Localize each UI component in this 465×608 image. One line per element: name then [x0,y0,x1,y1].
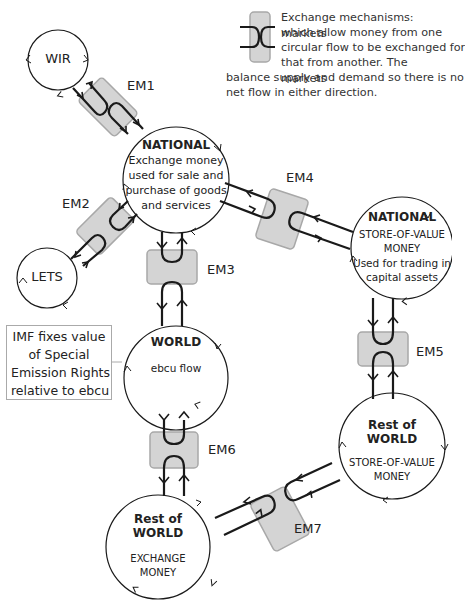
rest-world-store-line-2: MONEY [342,470,442,484]
national-exchange-text: NATIONAL Exchange money used for sale an… [118,138,234,213]
imf-line-2: of Special [11,346,107,364]
national-exchange-line-1: Exchange money [118,154,234,168]
imf-line-1: IMF fixes value [11,328,107,346]
national-store-line-4: capital assets [350,270,454,284]
rest-world-exchange-line-1: EXCHANGE [108,552,208,566]
legend-line-5: balance supply and demand so there is no [226,70,464,86]
rest-world-store-title-1: Rest of [342,418,442,432]
legend-line-2: which allow money from one [281,25,442,41]
wir-label: WIR [28,52,88,66]
world-subtitle: ebcu flow [126,361,226,375]
imf-annotation-box: IMF fixes value of Special Emission Righ… [6,325,112,400]
em4-mechanism [220,183,353,250]
em2-label: EM2 [62,196,90,211]
world-title: WORLD [126,335,226,349]
rest-world-exchange-line-2: MONEY [108,566,208,580]
em3-mechanism [147,232,197,326]
national-exchange-line-4: and services [118,199,234,213]
rest-world-exchange-title-1: Rest of [108,512,208,526]
legend-line-3: circular flow to be exchanged for [281,40,465,56]
em4-label: EM4 [286,170,314,185]
em7-label: EM7 [294,521,322,536]
em3-label: EM3 [207,262,235,277]
national-exchange-title: NATIONAL [118,138,234,152]
lets-label: LETS [17,270,77,284]
national-store-line-2: MONEY [350,242,454,256]
national-exchange-line-3: purchase of goods [118,184,234,198]
national-store-title: NATIONAL [350,210,454,224]
em5-label: EM5 [416,344,444,359]
rest-world-exchange-title-2: WORLD [108,526,208,540]
national-store-text: NATIONAL STORE-OF-VALUE MONEY Used for t… [350,210,454,284]
national-exchange-line-2: used for sale and [118,169,234,183]
em5-mechanism [358,298,408,399]
rest-world-store-line-1: STORE-OF-VALUE [342,456,442,470]
em7-mechanism [215,463,340,552]
imf-line-3: Emission Rights [11,364,107,382]
em6-label: EM6 [208,442,236,457]
rest-world-store-title-2: WORLD [342,432,442,446]
world-text: WORLD ebcu flow [126,335,226,375]
national-store-line-3: Used for trading in [350,256,454,270]
legend-line-6: net flow in either direction. [226,85,377,101]
em1-label: EM1 [127,78,155,93]
imf-line-4: relative to ebcu [11,382,107,400]
rest-world-store-text: Rest of WORLD STORE-OF-VALUE MONEY [342,418,442,484]
national-store-line-1: STORE-OF-VALUE [350,228,454,242]
rest-world-exchange-text: Rest of WORLD EXCHANGE MONEY [108,512,208,580]
